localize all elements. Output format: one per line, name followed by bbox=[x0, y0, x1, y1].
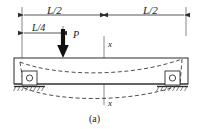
label-load-force: P bbox=[73, 30, 79, 40]
label-span-left: L/2 bbox=[47, 5, 62, 16]
beam-body bbox=[14, 58, 188, 84]
label-axis-x-top: x bbox=[108, 40, 112, 49]
label-axis-x-bottom: x bbox=[108, 99, 112, 108]
beam-diagram-figure: L/2 L/2 L/4 P x x (a) bbox=[0, 0, 199, 129]
label-span-right: L/2 bbox=[143, 5, 158, 16]
deflected-bottom-fiber bbox=[24, 85, 180, 99]
label-load-offset: L/4 bbox=[32, 23, 45, 33]
beam-diagram-svg bbox=[0, 0, 199, 129]
figure-caption: (a) bbox=[89, 113, 100, 124]
